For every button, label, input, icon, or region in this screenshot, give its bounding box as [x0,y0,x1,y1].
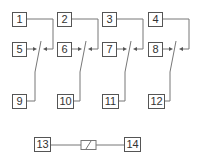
terminal-1: 1 [12,12,27,27]
terminal-12: 12 [148,94,165,109]
wiring-lines [0,0,198,161]
terminal-8: 8 [148,42,163,57]
terminal-3: 3 [102,12,117,27]
coil-terminal-14: 14 [124,137,141,152]
terminal-7: 7 [102,42,117,57]
terminal-4: 4 [148,12,163,27]
terminal-2: 2 [57,12,72,27]
terminal-11: 11 [102,94,119,109]
coil-terminal-13: 13 [34,137,51,152]
terminal-10: 10 [57,94,74,109]
terminal-5: 5 [12,42,27,57]
terminal-6: 6 [57,42,72,57]
terminal-9: 9 [12,94,27,109]
